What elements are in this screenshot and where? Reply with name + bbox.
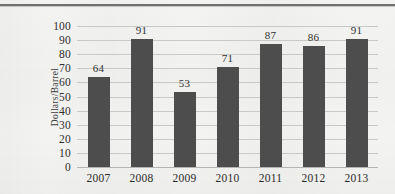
bar-value-label: 71 <box>222 52 233 64</box>
bar-slot: 87 <box>249 26 292 167</box>
x-axis-tick-label: 2008 <box>120 172 163 184</box>
bar <box>88 77 110 167</box>
bar <box>346 39 368 167</box>
chart-page: Dollars/Barrel 1009080706050403020100 64… <box>0 0 395 194</box>
x-axis-tick-label: 2007 <box>77 172 120 184</box>
y-axis-tick-label: 30 <box>59 119 71 131</box>
bar-value-label: 64 <box>93 62 104 74</box>
bar-value-label: 86 <box>308 31 319 43</box>
bar-value-label: 91 <box>351 24 362 36</box>
plot-area: 64915371878691 <box>77 26 378 167</box>
y-axis-tick-label: 20 <box>59 133 71 145</box>
y-axis-tick-label: 60 <box>59 76 71 88</box>
bar <box>217 67 239 167</box>
bar-series: 64915371878691 <box>77 26 378 167</box>
x-axis-tick-label: 2009 <box>163 172 206 184</box>
bar <box>131 39 153 167</box>
y-axis-tick-labels: 1009080706050403020100 <box>0 0 77 194</box>
x-axis-tick-label: 2013 <box>335 172 378 184</box>
bar-slot: 91 <box>335 26 378 167</box>
bar <box>260 44 282 167</box>
bar-slot: 53 <box>163 26 206 167</box>
y-axis-tick-label: 0 <box>65 161 71 173</box>
y-axis-tick-label: 50 <box>59 91 71 103</box>
x-axis-tick-labels: 2007200820092010201120122013 <box>77 172 378 184</box>
bar-value-label: 87 <box>265 29 276 41</box>
x-axis-tick-label: 2012 <box>292 172 335 184</box>
bar-slot: 91 <box>120 26 163 167</box>
y-axis-tick-label: 70 <box>59 62 71 74</box>
bar-slot: 71 <box>206 26 249 167</box>
x-axis-tick-label: 2010 <box>206 172 249 184</box>
bar-slot: 86 <box>292 26 335 167</box>
bar-value-label: 91 <box>136 24 147 36</box>
y-axis-tick-label: 80 <box>59 48 71 60</box>
bar-value-label: 53 <box>179 77 190 89</box>
bar <box>174 92 196 167</box>
bar <box>303 46 325 167</box>
gridline <box>77 167 378 168</box>
y-axis-tick-label: 40 <box>59 105 71 117</box>
x-axis-tick-label: 2011 <box>249 172 292 184</box>
bar-slot: 64 <box>77 26 120 167</box>
y-axis-tick-label: 90 <box>59 34 71 46</box>
y-axis-tick-label: 100 <box>53 20 71 32</box>
y-axis-tick-label: 10 <box>59 147 71 159</box>
